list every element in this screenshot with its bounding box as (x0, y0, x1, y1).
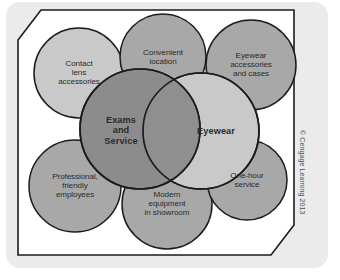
figure-container: Contact lens accessories Convenient loca… (0, 0, 340, 280)
copyright-credit: © Cengage Learning 2013 (299, 130, 306, 215)
bubble-canvas: Contact lens accessories Convenient loca… (17, 9, 295, 256)
